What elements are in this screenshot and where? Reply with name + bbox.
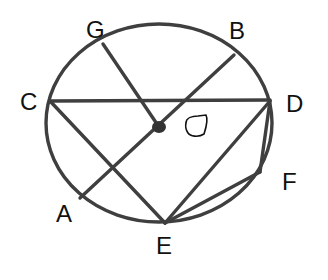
point-label-c: C (20, 88, 37, 115)
segment-de (165, 101, 270, 223)
point-label-d: D (286, 90, 303, 117)
center-point-o (152, 121, 166, 133)
point-label-e: E (156, 232, 172, 259)
segment-go (103, 44, 159, 127)
segment-cd (50, 100, 270, 101)
center-label-o (186, 115, 207, 136)
point-label-f: F (282, 168, 297, 195)
point-label-b: B (229, 17, 245, 44)
segment-fe (165, 172, 260, 223)
geometry-diagram: G B C D A E F (0, 0, 328, 280)
point-label-a: A (56, 200, 72, 227)
point-label-g: G (86, 16, 105, 43)
